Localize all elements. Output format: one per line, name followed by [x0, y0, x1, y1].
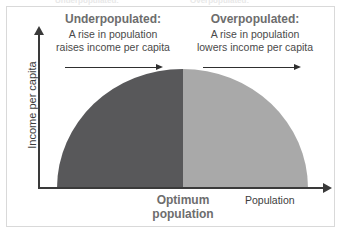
overpopulated-region [183, 69, 308, 188]
y-axis-line [38, 33, 40, 189]
arrow-head [294, 64, 301, 70]
arrow-right-icon [323, 183, 332, 193]
arrow-shaft [65, 67, 156, 68]
annotation-overpopulated: Overpopulated: A rise in population lowe… [175, 12, 335, 53]
annotation-overpopulated-heading: Overpopulated: [175, 12, 335, 27]
annotation-underpopulated-heading: Underpopulated: [33, 12, 193, 27]
annotation-underpopulated-line1: A rise in population [33, 28, 193, 41]
diagram-figure: Income per capita Population Underpopula… [6, 6, 335, 227]
x-axis-line [38, 187, 326, 189]
underpopulated-region [57, 69, 183, 188]
annotation-overpopulated-arrow-right-icon [203, 64, 301, 72]
optimum-population-line2: population [113, 207, 253, 221]
arrow-shaft [203, 67, 294, 68]
annotation-underpopulated-arrow-right-icon [65, 64, 163, 72]
annotation-overpopulated-line1: A rise in population [175, 28, 335, 41]
annotation-overpopulated-line2: lowers income per capita [175, 41, 335, 54]
semicircle-shape [57, 69, 308, 188]
ghost-fragment-left: Underpopulated: [55, 0, 119, 5]
ghost-fragment-right: Overpopulated: [190, 0, 249, 5]
cut-off-text-row: Underpopulated: Overpopulated: [0, 0, 341, 5]
optimum-population-label: Optimum population [113, 193, 253, 221]
optimum-population-line1: Optimum [113, 193, 253, 207]
arrow-head [156, 64, 163, 70]
annotation-underpopulated-line2: raises income per capita [33, 41, 193, 54]
annotation-underpopulated: Underpopulated: A rise in population rai… [33, 12, 193, 53]
income-per-capita-curve [57, 69, 308, 188]
